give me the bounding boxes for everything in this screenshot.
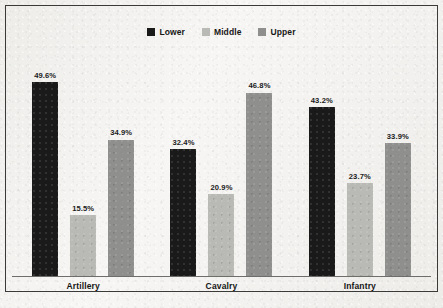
legend-swatch-middle-icon xyxy=(202,28,210,36)
bar-slot-infantry-upper: 33.9% xyxy=(385,48,411,276)
bar-value-infantry-lower: 43.2% xyxy=(311,97,333,105)
bar-slot-infantry-middle: 23.7% xyxy=(347,48,373,276)
bar-infantry-lower xyxy=(309,107,335,276)
bar-groups: 49.6% 15.5% 34.9% 32.4% xyxy=(14,48,429,276)
bar-chart-figure: Lower Middle Upper 49.6% 15.5% xyxy=(0,0,443,308)
bar-infantry-upper xyxy=(385,143,411,276)
legend-label-upper: Upper xyxy=(270,28,295,37)
bar-cavalry-middle xyxy=(208,194,234,276)
bar-value-infantry-middle: 23.7% xyxy=(349,173,371,181)
legend-item-lower: Lower xyxy=(147,28,185,37)
bar-group-cavalry: 32.4% 20.9% 46.8% xyxy=(152,48,290,276)
x-axis-tick-labels: Artillery Cavalry Infantry xyxy=(14,281,429,291)
bar-group-artillery: 49.6% 15.5% 34.9% xyxy=(14,48,152,276)
plot-area: 49.6% 15.5% 34.9% 32.4% xyxy=(14,48,429,276)
bar-group-infantry: 43.2% 23.7% 33.9% xyxy=(291,48,429,276)
bar-value-cavalry-lower: 32.4% xyxy=(172,139,194,147)
bar-slot-artillery-middle: 15.5% xyxy=(70,48,96,276)
bar-value-artillery-lower: 49.6% xyxy=(34,72,56,80)
bar-artillery-upper xyxy=(108,140,134,276)
legend-item-upper: Upper xyxy=(258,28,295,37)
category-label-artillery: Artillery xyxy=(14,281,152,291)
bar-value-artillery-middle: 15.5% xyxy=(72,205,94,213)
bar-slot-cavalry-lower: 32.4% xyxy=(170,48,196,276)
bar-infantry-middle xyxy=(347,183,373,276)
bar-cavalry-lower xyxy=(170,149,196,276)
legend-label-middle: Middle xyxy=(214,28,242,37)
bar-value-infantry-upper: 33.9% xyxy=(387,133,409,141)
bar-value-cavalry-upper: 46.8% xyxy=(248,82,270,90)
category-label-infantry: Infantry xyxy=(291,281,429,291)
legend-swatch-lower-icon xyxy=(147,28,155,36)
bar-slot-artillery-lower: 49.6% xyxy=(32,48,58,276)
legend-swatch-upper-icon xyxy=(258,28,266,36)
legend-item-middle: Middle xyxy=(202,28,242,37)
bar-slot-infantry-lower: 43.2% xyxy=(309,48,335,276)
bar-artillery-middle xyxy=(70,215,96,276)
legend-label-lower: Lower xyxy=(159,28,185,37)
bar-value-artillery-upper: 34.9% xyxy=(110,129,132,137)
x-axis-line xyxy=(12,276,431,277)
bar-cavalry-upper xyxy=(246,93,272,276)
bar-slot-artillery-upper: 34.9% xyxy=(108,48,134,276)
bar-value-cavalry-middle: 20.9% xyxy=(210,184,232,192)
bar-artillery-lower xyxy=(32,82,58,276)
category-label-cavalry: Cavalry xyxy=(152,281,290,291)
bar-slot-cavalry-middle: 20.9% xyxy=(208,48,234,276)
bar-slot-cavalry-upper: 46.8% xyxy=(246,48,272,276)
chart-legend: Lower Middle Upper xyxy=(0,28,443,37)
